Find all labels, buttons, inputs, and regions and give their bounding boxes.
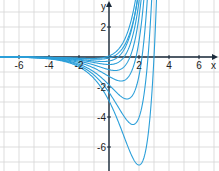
x-tick-label: -6 xyxy=(15,60,24,71)
axes xyxy=(0,1,218,171)
x-tick-label: 4 xyxy=(166,60,172,71)
x-tick-label: 2 xyxy=(136,60,142,71)
chart: -6-4-22462-2-4-6xy xyxy=(0,0,219,171)
y-tick-label: -4 xyxy=(97,112,106,123)
tick-labels: -6-4-22462-2-4-6xy xyxy=(15,1,216,153)
x-tick-label: -2 xyxy=(75,60,84,71)
y-tick-label: -2 xyxy=(97,82,106,93)
x-axis-label: x xyxy=(211,60,216,71)
y-axis-label: y xyxy=(101,1,106,12)
y-tick-label: -6 xyxy=(97,142,106,153)
y-tick-label: 2 xyxy=(100,22,106,33)
x-tick-label: -4 xyxy=(45,60,54,71)
x-tick-label: 6 xyxy=(196,60,202,71)
